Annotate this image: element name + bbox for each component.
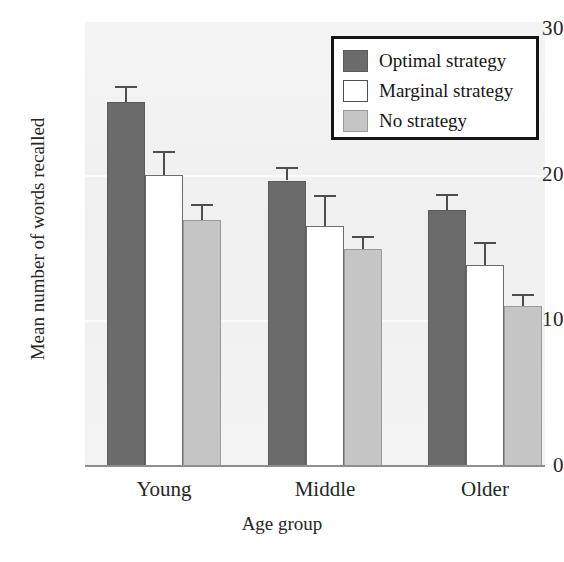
error-bar-cap-young-1 (153, 151, 175, 153)
error-bar-stem-older-0 (446, 194, 448, 210)
legend-swatch-marginal-icon (343, 80, 368, 102)
error-bar-stem-young-2 (201, 204, 203, 220)
legend-label-marginal: Marginal strategy (379, 81, 513, 101)
error-bar-cap-young-2 (191, 204, 213, 206)
legend-item-no-strategy: No strategy (343, 106, 527, 136)
error-bar-cap-older-0 (436, 194, 458, 196)
error-bar-cap-middle-0 (276, 167, 298, 169)
x-axis-title: Age group (0, 513, 564, 535)
legend-item-marginal: Marginal strategy (343, 76, 527, 106)
y-tick-label-20: 20 (494, 164, 564, 185)
legend-item-optimal: Optimal strategy (343, 46, 527, 76)
legend-swatch-optimal-icon (343, 50, 368, 72)
error-bar-cap-older-1 (474, 242, 496, 244)
x-axis-line (85, 465, 545, 467)
bar-chart-figure: 0 10 20 30 Mean number of words recalled… (0, 0, 564, 562)
legend-label-no-strategy: No strategy (379, 111, 467, 131)
y-tick-label-0: 0 (494, 455, 564, 476)
bar-older-optimal-strategy (428, 210, 466, 466)
bar-young-marginal-strategy (145, 175, 183, 466)
legend-swatch-no-strategy-icon (343, 110, 368, 132)
bar-young-optimal-strategy (107, 102, 145, 466)
bar-older-marginal-strategy (466, 265, 504, 466)
bar-middle-optimal-strategy (268, 181, 306, 467)
bar-young-no-strategy (183, 220, 221, 466)
error-bar-cap-middle-1 (314, 195, 336, 197)
x-tick-label-middle: Middle (255, 477, 395, 501)
error-bar-stem-young-1 (163, 151, 165, 174)
bar-middle-no-strategy (344, 249, 382, 466)
error-bar-stem-young-0 (125, 86, 127, 102)
error-bar-cap-young-0 (115, 86, 137, 88)
error-bar-cap-older-2 (512, 294, 534, 296)
chart-legend: Optimal strategy Marginal strategy No st… (331, 36, 539, 140)
x-tick-label-older: Older (415, 477, 555, 501)
error-bar-cap-middle-2 (352, 236, 374, 238)
error-bar-stem-middle-1 (324, 195, 326, 226)
bar-middle-marginal-strategy (306, 226, 344, 466)
error-bar-stem-older-1 (484, 242, 486, 265)
y-tick-label-10: 10 (494, 309, 564, 330)
x-tick-label-young: Young (94, 477, 234, 501)
legend-label-optimal: Optimal strategy (379, 51, 506, 71)
y-axis-title: Mean number of words recalled (27, 29, 49, 449)
